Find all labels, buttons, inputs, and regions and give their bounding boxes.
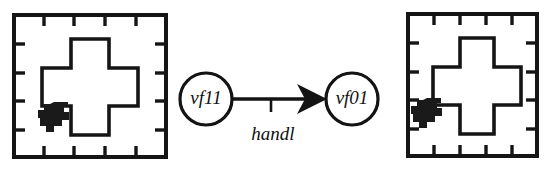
figure-root: vf11 vf01 handl — [0, 0, 553, 170]
node-vf01[interactable]: vf01 — [326, 73, 378, 125]
rule-graph: vf11 vf01 handl — [180, 73, 378, 144]
panel-right-robot-marker — [411, 98, 442, 128]
node-vf01-label: vf01 — [336, 87, 369, 108]
panel-right[interactable] — [408, 14, 537, 156]
transformation-figure: vf11 vf01 handl — [0, 0, 553, 170]
node-vf11-label: vf11 — [190, 87, 221, 108]
panel-right-cross-shape — [433, 38, 521, 134]
node-vf11[interactable]: vf11 — [180, 73, 232, 125]
panel-left[interactable] — [14, 15, 166, 157]
edge-handl-label: handl — [251, 123, 294, 144]
